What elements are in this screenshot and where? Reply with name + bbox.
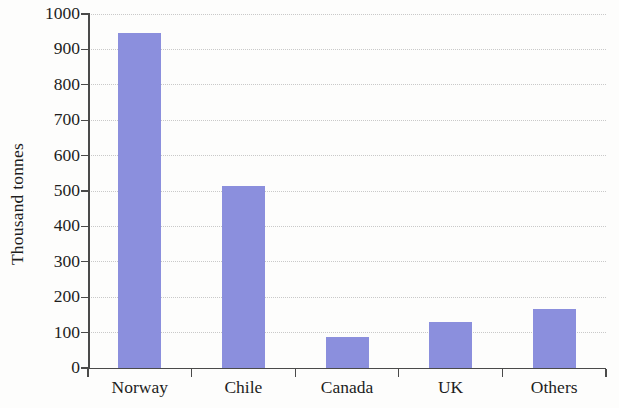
- gridline: [89, 14, 606, 16]
- y-axis-tick-label: 200: [20, 288, 80, 306]
- y-axis-title: Thousand tonnes: [0, 0, 34, 408]
- y-axis-tick: [81, 297, 88, 298]
- y-axis-tick-label: 900: [20, 40, 80, 58]
- x-axis-tick-origin: [87, 369, 88, 377]
- gridline: [89, 49, 606, 51]
- y-axis-tick: [81, 84, 88, 85]
- bar-uk: [429, 322, 472, 368]
- y-axis-tick-label: 100: [20, 324, 80, 342]
- x-axis-tick: [605, 369, 606, 377]
- x-axis-tick: [295, 369, 296, 377]
- y-axis-tick: [81, 332, 88, 333]
- y-axis-tick-label: 500: [20, 182, 80, 200]
- y-axis-tick-label: 0: [20, 359, 80, 377]
- bar-chile: [222, 186, 265, 368]
- gridline: [89, 332, 606, 334]
- gridline: [89, 226, 606, 228]
- bar-canada: [326, 337, 369, 368]
- gridline: [89, 261, 606, 263]
- gridline: [89, 155, 606, 157]
- y-axis-tick: [81, 13, 88, 14]
- gridline: [89, 120, 606, 122]
- gridline: [89, 191, 606, 193]
- y-axis-tick-label: 700: [20, 111, 80, 129]
- gridline: [89, 84, 606, 86]
- gridline: [89, 297, 606, 299]
- y-axis-tick-label: 300: [20, 253, 80, 271]
- y-axis-line: [88, 13, 90, 369]
- bar-others: [533, 309, 576, 368]
- y-axis-tick-label: 600: [20, 147, 80, 165]
- y-axis-tick-label: 800: [20, 76, 80, 94]
- x-axis-tick-label: Others: [494, 378, 614, 397]
- x-axis-tick-label: Chile: [183, 378, 303, 397]
- x-axis-tick-label: UK: [391, 378, 511, 397]
- y-axis-tick: [81, 120, 88, 121]
- x-axis-tick-label: Canada: [287, 378, 407, 397]
- bar-chart: Thousand tonnes 010020030040050060070080…: [0, 0, 619, 408]
- y-axis-tick: [81, 49, 88, 50]
- y-axis-tick: [81, 155, 88, 156]
- x-axis-tick: [398, 369, 399, 377]
- x-axis-tick: [191, 369, 192, 377]
- x-axis-tick: [502, 369, 503, 377]
- bar-norway: [118, 33, 161, 368]
- y-axis-tick: [81, 190, 88, 191]
- y-axis-tick-label: 400: [20, 217, 80, 235]
- x-axis-tick-label: Norway: [80, 378, 200, 397]
- y-axis-tick: [81, 261, 88, 262]
- y-axis-tick: [81, 226, 88, 227]
- y-axis-tick-label: 1000: [20, 5, 80, 23]
